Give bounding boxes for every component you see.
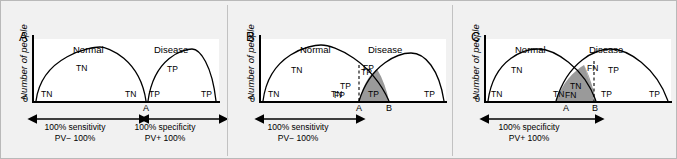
panel-a-tn-left: TN bbox=[41, 89, 52, 99]
panel-b: B Number of people 0 Normal Disease TN T… bbox=[228, 1, 452, 159]
panel-b-normal-label: Normal bbox=[300, 44, 331, 55]
panel-a-annot-right-line2: PV+ 100% bbox=[113, 133, 217, 144]
panel-c-cutpoint-b: B bbox=[592, 103, 598, 113]
panel-c-y-axis-label: Number of people bbox=[471, 23, 481, 101]
panel-a-cutpoint-a: A bbox=[143, 103, 149, 113]
panel-b-origin-label: 0 bbox=[250, 94, 255, 104]
panel-a-tp-left: TP bbox=[149, 89, 160, 99]
panel-b-cutpoint-a: A bbox=[356, 103, 362, 113]
panel-b-fp-lower: FP bbox=[334, 90, 345, 100]
panel-c-tn-mid: TN bbox=[553, 89, 564, 99]
panel-b-tn-left: TN bbox=[268, 89, 279, 99]
panel-c-fn-lower: FN bbox=[565, 90, 576, 100]
panel-c: C Number of people 0 Normal Disease TN T… bbox=[453, 1, 677, 159]
panel-a-disease-label: Disease bbox=[154, 44, 188, 55]
panel-a-tp-peak: TP bbox=[167, 64, 178, 74]
panel-b-tp-mid: TP bbox=[368, 89, 379, 99]
panel-c-tp-peak: TP bbox=[608, 65, 619, 75]
panel-a-annotation-right: 100% specificity PV+ 100% bbox=[113, 122, 217, 144]
panel-b-y-axis-label: Number of people bbox=[246, 23, 256, 101]
panel-c-normal-label: Normal bbox=[515, 44, 546, 55]
panel-c-fn-upper: FN bbox=[587, 63, 598, 73]
panel-a-tp-right: TP bbox=[201, 89, 212, 99]
figure-container: A Number of people 0 Normal Disease TN T… bbox=[0, 0, 677, 159]
panel-c-tn-left: TN bbox=[491, 89, 502, 99]
panel-a-annot-left-line1: 100% sensitivity bbox=[25, 122, 125, 133]
panel-c-annot-line2: PV+ 100% bbox=[473, 133, 585, 144]
panel-b-annot-line2: PV− 100% bbox=[242, 133, 354, 144]
panel-b-tp-right: TP bbox=[424, 89, 435, 99]
panel-b-annot-line1: 100% sensitivity bbox=[242, 122, 354, 133]
panel-a-tn-peak: TN bbox=[76, 63, 87, 73]
panel-b-tn-peak: TN bbox=[291, 65, 302, 75]
panel-a-y-axis-label: Number of people bbox=[19, 23, 29, 101]
panel-a-annot-left-line2: PV− 100% bbox=[25, 133, 125, 144]
panel-b-curves bbox=[259, 35, 449, 103]
panel-c-tn-peak: TN bbox=[511, 65, 522, 75]
panel-c-origin-label: 0 bbox=[475, 94, 480, 104]
panel-b-disease-label: Disease bbox=[368, 44, 402, 55]
panel-c-tp-right: TP bbox=[649, 89, 660, 99]
panel-a-annotation-left: 100% sensitivity PV− 100% bbox=[25, 122, 125, 144]
panel-a-tn-right: TN bbox=[125, 89, 136, 99]
panel-a-normal-label: Normal bbox=[73, 44, 104, 55]
panel-b-fp-upper: FP bbox=[363, 63, 374, 73]
panel-c-annotation: 100% specificity PV+ 100% bbox=[473, 122, 585, 144]
panel-a-origin-label: 0 bbox=[23, 94, 28, 104]
panel-c-tp-mid: TP bbox=[601, 89, 612, 99]
panel-b-cutpoint-b: B bbox=[386, 103, 392, 113]
panel-c-annot-line1: 100% specificity bbox=[473, 122, 585, 133]
panel-c-cutpoint-a: A bbox=[563, 103, 569, 113]
panel-a: A Number of people 0 Normal Disease TN T… bbox=[1, 1, 227, 159]
panel-a-annot-right-line1: 100% specificity bbox=[113, 122, 217, 133]
panel-b-annotation: 100% sensitivity PV− 100% bbox=[242, 122, 354, 144]
panel-c-disease-label: Disease bbox=[589, 44, 623, 55]
